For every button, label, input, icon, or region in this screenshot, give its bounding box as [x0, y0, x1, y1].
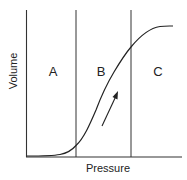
pressure-volume-diagram: A B C Pressure Volume — [0, 0, 187, 180]
direction-arrow-shaft — [102, 96, 116, 126]
sigmoid-curve — [27, 26, 173, 156]
arrow-head-icon — [113, 91, 119, 100]
region-label-b: B — [97, 64, 106, 79]
x-axis-label: Pressure — [86, 162, 130, 174]
y-axis-label: Volume — [7, 53, 19, 90]
region-label-c: C — [153, 64, 162, 79]
region-label-a: A — [49, 64, 58, 79]
